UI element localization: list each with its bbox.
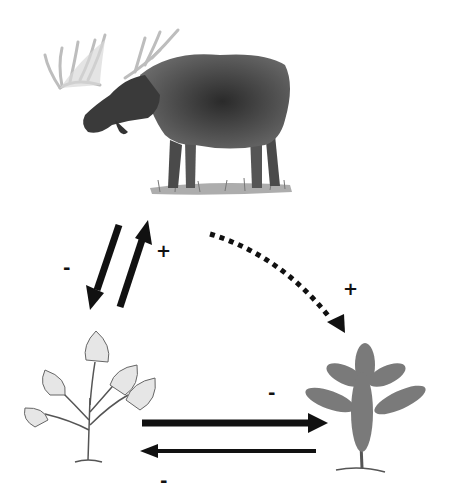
arrow-moose-to-conifer-dotted <box>210 234 345 333</box>
sign-deciduous-to-conifer: - <box>268 384 275 402</box>
sign-moose-to-deciduous: - <box>63 259 70 277</box>
arrow-deciduous-to-moose <box>120 220 152 307</box>
interaction-diagram <box>0 0 453 501</box>
sign-moose-to-conifer: + <box>343 280 358 298</box>
conifer-seedling-icon <box>302 343 429 472</box>
deciduous-sapling-icon <box>24 331 155 462</box>
arrow-moose-to-deciduous <box>86 225 119 310</box>
sign-deciduous-to-moose: + <box>156 242 171 260</box>
moose-icon <box>45 30 292 195</box>
sign-conifer-to-deciduous: - <box>160 472 167 490</box>
arrow-deciduous-to-conifer <box>142 413 328 433</box>
arrow-conifer-to-deciduous <box>140 444 316 458</box>
